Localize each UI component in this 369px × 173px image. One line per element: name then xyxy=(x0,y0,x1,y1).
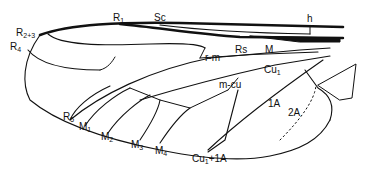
label-sub: 1 xyxy=(277,69,281,76)
label-cu1: Cu1 xyxy=(264,65,281,76)
label-sub: 3 xyxy=(139,144,143,151)
cu1a-vein xyxy=(208,90,238,152)
label-main: Cu xyxy=(192,153,205,164)
label-sub: 5 xyxy=(70,116,74,123)
label-tail: +1A xyxy=(209,153,227,164)
label-m2: M2 xyxy=(101,132,113,143)
cu1-vein xyxy=(140,56,330,100)
wing-diagram xyxy=(0,0,369,173)
label-1a: 1A xyxy=(268,99,280,109)
label-sub: 4 xyxy=(17,46,21,53)
label-m1: M1 xyxy=(79,122,91,133)
label-r4: R4 xyxy=(10,42,21,53)
label-main: m-cu xyxy=(219,79,241,90)
label-rs: Rs xyxy=(235,45,247,55)
label-rm: r-m xyxy=(205,53,220,63)
label-m: M xyxy=(265,45,273,55)
alula xyxy=(318,64,356,100)
label-r23: R2+3 xyxy=(16,28,35,39)
label-main: Cu xyxy=(264,64,277,75)
label-main: M xyxy=(265,44,273,55)
m3-vein xyxy=(140,100,160,140)
m1-vein xyxy=(85,88,130,126)
label-r5: R5 xyxy=(63,112,74,123)
m2-vein xyxy=(108,95,150,133)
label-m4: M4 xyxy=(155,146,167,157)
label-sub: 2+3 xyxy=(23,32,35,39)
label-2a: 2A xyxy=(288,108,300,118)
label-r1: R1 xyxy=(113,13,124,24)
r45-crossvein xyxy=(100,57,115,70)
label-main: 2A xyxy=(288,107,300,118)
label-sub: 1 xyxy=(87,126,91,133)
label-main: Rs xyxy=(235,44,247,55)
label-cu1-1a: Cu1+1A xyxy=(192,154,227,165)
label-sub: 1 xyxy=(120,17,124,24)
label-mcu: m-cu xyxy=(219,80,241,90)
anal-lobe-margin xyxy=(305,70,332,120)
m4-vein xyxy=(160,108,190,143)
label-main: Sc xyxy=(154,12,166,23)
label-m3: M3 xyxy=(131,140,143,151)
label-h: h xyxy=(307,14,313,24)
label-main: h xyxy=(307,13,313,24)
label-sc: Sc xyxy=(154,13,166,23)
r4-vein xyxy=(28,50,100,70)
label-sub: 2 xyxy=(109,136,113,143)
label-main: 1A xyxy=(268,98,280,109)
label-sub: 4 xyxy=(163,150,167,157)
label-main: r-m xyxy=(205,52,220,63)
r23-vein xyxy=(48,34,205,48)
